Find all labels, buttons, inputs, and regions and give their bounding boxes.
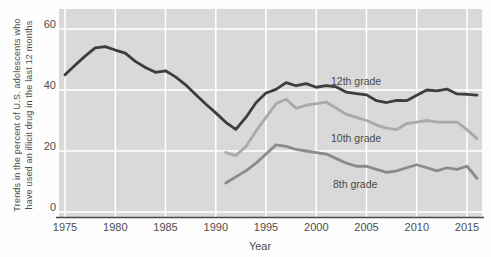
series-annotation-8th-grade: 8th grade <box>333 178 377 190</box>
y-tick-label: 20 <box>16 140 56 153</box>
x-tick-label: 1990 <box>204 221 228 234</box>
y-axis-title: Trends in the percent of U.S. adolescent… <box>12 7 36 223</box>
x-tick-label: 2015 <box>455 221 479 234</box>
y-tick-label: 60 <box>16 18 56 31</box>
y-axis-title-line2: have used an illicit drug in the last 12… <box>24 7 36 223</box>
x-tick-label: 1985 <box>153 221 177 234</box>
x-tick-label: 1975 <box>53 221 77 234</box>
x-tick-label: 1995 <box>254 221 278 234</box>
y-axis-title-line1: Trends in the percent of U.S. adolescent… <box>12 7 24 223</box>
y-tick-label: 0 <box>16 201 56 214</box>
series-annotation-12th-grade: 12th grade <box>331 75 381 87</box>
x-tick-label: 1980 <box>103 221 127 234</box>
x-axis-title: Year <box>236 240 284 252</box>
x-tick-label: 2000 <box>304 221 328 234</box>
x-tick-label: 2005 <box>354 221 378 234</box>
plot-area <box>0 0 491 257</box>
y-tick-label: 40 <box>16 79 56 92</box>
series-annotation-10th-grade: 10th grade <box>331 132 381 144</box>
line-chart-figure: Trends in the percent of U.S. adolescent… <box>0 0 491 257</box>
x-tick-label: 2010 <box>405 221 429 234</box>
